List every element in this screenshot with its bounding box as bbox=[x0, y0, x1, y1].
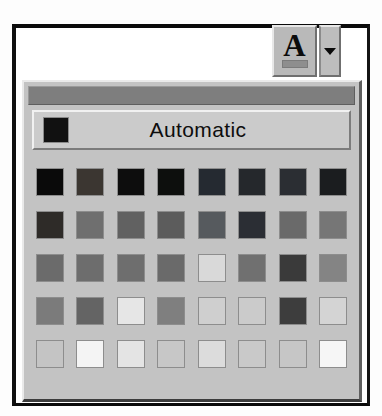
swatch-dark-red[interactable] bbox=[36, 211, 64, 239]
swatch-violet[interactable] bbox=[279, 254, 307, 282]
swatch-lime[interactable] bbox=[117, 254, 145, 282]
swatch-orange[interactable] bbox=[76, 211, 104, 239]
swatch-dark-teal[interactable] bbox=[198, 168, 226, 196]
swatch-gray-50[interactable] bbox=[319, 211, 347, 239]
font-color-button[interactable]: A bbox=[272, 25, 317, 77]
font-color-palette-panel: Automatic bbox=[22, 80, 362, 402]
automatic-color-button[interactable]: Automatic bbox=[32, 110, 351, 150]
automatic-color-label: Automatic bbox=[69, 118, 327, 142]
swatch-lavender[interactable] bbox=[279, 340, 307, 368]
swatch-sky-blue[interactable] bbox=[238, 297, 266, 325]
swatch-pink[interactable] bbox=[36, 297, 64, 325]
swatch-plum[interactable] bbox=[279, 297, 307, 325]
font-color-letter-a-icon: A bbox=[283, 33, 305, 58]
screenshot-root: A Automatic bbox=[0, 0, 382, 416]
swatch-olive-dark[interactable] bbox=[117, 168, 145, 196]
swatch-light-turquoise[interactable] bbox=[198, 340, 226, 368]
tearoff-grip-handle[interactable] bbox=[28, 86, 355, 105]
swatch-dark-brown[interactable] bbox=[76, 168, 104, 196]
swatch-indigo[interactable] bbox=[279, 168, 307, 196]
swatch-aqua[interactable] bbox=[198, 254, 226, 282]
swatch-light-yellow[interactable] bbox=[117, 340, 145, 368]
swatch-gray-25[interactable] bbox=[319, 297, 347, 325]
swatch-yellow[interactable] bbox=[117, 297, 145, 325]
swatch-blue[interactable] bbox=[238, 211, 266, 239]
swatch-white[interactable] bbox=[319, 340, 347, 368]
swatch-gold[interactable] bbox=[76, 297, 104, 325]
swatch-teal[interactable] bbox=[198, 211, 226, 239]
swatch-light-green[interactable] bbox=[157, 340, 185, 368]
swatch-tan[interactable] bbox=[76, 340, 104, 368]
swatch-black[interactable] bbox=[36, 168, 64, 196]
swatch-red[interactable] bbox=[36, 254, 64, 282]
caret-down-icon bbox=[324, 48, 336, 55]
swatch-light-blue[interactable] bbox=[238, 254, 266, 282]
swatch-gray-80[interactable] bbox=[319, 168, 347, 196]
swatch-gray-40[interactable] bbox=[319, 254, 347, 282]
automatic-color-swatch bbox=[43, 117, 69, 143]
swatch-dark-blue[interactable] bbox=[238, 168, 266, 196]
swatch-pale-blue[interactable] bbox=[238, 340, 266, 368]
swatch-bright-green[interactable] bbox=[157, 297, 185, 325]
swatch-rose[interactable] bbox=[36, 340, 64, 368]
swatch-green[interactable] bbox=[157, 211, 185, 239]
color-swatch-grid bbox=[32, 162, 351, 373]
swatch-dark-green[interactable] bbox=[157, 168, 185, 196]
swatch-light-orange[interactable] bbox=[76, 254, 104, 282]
font-color-dropdown-toggle[interactable] bbox=[319, 25, 341, 77]
swatch-turquoise[interactable] bbox=[198, 297, 226, 325]
swatch-dark-yellow[interactable] bbox=[117, 211, 145, 239]
swatch-blue-gray[interactable] bbox=[279, 211, 307, 239]
font-color-underline-swatch bbox=[282, 60, 308, 68]
swatch-sea-green[interactable] bbox=[157, 254, 185, 282]
